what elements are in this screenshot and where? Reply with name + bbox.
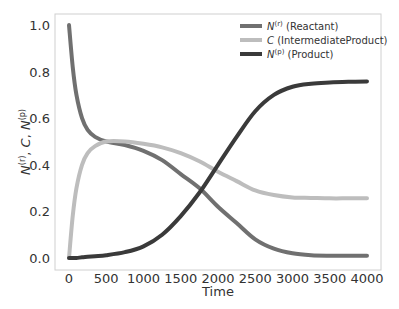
x-tick-label: 3500 bbox=[313, 271, 346, 286]
x-axis-label: Time bbox=[201, 284, 234, 299]
x-tick-label: 2500 bbox=[239, 271, 272, 286]
x-tick-label: 4000 bbox=[350, 271, 383, 286]
y-tick-label: 0.2 bbox=[29, 204, 50, 219]
y-tick-label: 0.8 bbox=[29, 65, 50, 80]
x-tick-label: 1500 bbox=[164, 271, 197, 286]
chart: 0.00.20.40.60.81.0 050010001500200025003… bbox=[0, 0, 399, 309]
x-tick-label: 1000 bbox=[127, 271, 160, 286]
legend-entry: C (IntermediateProduct) bbox=[267, 35, 388, 46]
x-tick-label: 3000 bbox=[276, 271, 309, 286]
y-tick-label: 0.0 bbox=[29, 251, 50, 266]
y-tick-label: 1.0 bbox=[29, 18, 50, 33]
x-tick-label: 0 bbox=[65, 271, 73, 286]
x-tick-label: 500 bbox=[94, 271, 119, 286]
